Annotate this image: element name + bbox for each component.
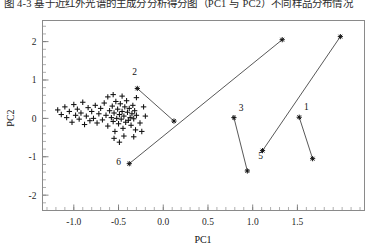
data-point-plus: [131, 134, 136, 139]
data-point-plus: [128, 123, 133, 128]
data-point-plus: [84, 113, 89, 118]
data-point-star: [231, 115, 236, 120]
data-point-plus: [85, 105, 90, 110]
data-point-plus: [55, 107, 60, 112]
point-number-label: 2: [132, 67, 137, 77]
data-point-star: [135, 86, 140, 91]
data-point-plus: [59, 112, 64, 117]
data-point-plus: [143, 113, 148, 118]
data-point-plus: [96, 111, 101, 116]
x-tick-label: -1.0: [66, 217, 81, 227]
data-point-plus: [132, 108, 137, 113]
data-point-plus: [103, 113, 108, 118]
major-tick-marks: [43, 42, 298, 211]
y-tick-label: 1: [32, 75, 37, 85]
data-point-plus: [98, 106, 103, 111]
data-point-plus: [111, 136, 116, 141]
data-point-plus: [120, 126, 125, 131]
y-tick-label: 0: [32, 114, 37, 124]
data-point-star: [245, 168, 250, 173]
x-tick-label: -0.5: [111, 217, 126, 227]
data-point-plus: [119, 116, 124, 121]
x-axis-tick-labels: -1.0-0.50.00.51.01.5: [66, 217, 303, 227]
data-point-plus: [100, 117, 105, 122]
plus-marker-group: [55, 92, 148, 145]
x-tick-label: 0.5: [202, 217, 214, 227]
data-point-star: [338, 34, 343, 39]
data-point-plus: [141, 104, 146, 109]
pair-connector-line: [299, 117, 312, 158]
data-point-star: [310, 156, 315, 161]
data-point-plus: [114, 116, 119, 121]
data-point-plus: [93, 103, 98, 108]
point-number-label: 3: [239, 103, 244, 113]
pair-connector-line: [234, 118, 247, 171]
data-point-plus: [105, 123, 110, 128]
data-point-plus: [76, 116, 81, 121]
data-point-plus: [80, 100, 85, 105]
plot-canvas: -1.0-0.50.00.51.01.5 -2-1012 PC1 PC2 123…: [0, 0, 391, 252]
pair-connector-line: [263, 37, 341, 151]
data-point-star: [297, 115, 302, 120]
data-point-plus: [119, 93, 124, 98]
point-number-label: 6: [116, 157, 121, 167]
data-point-star: [127, 161, 132, 166]
data-point-plus: [130, 103, 135, 108]
data-point-plus: [134, 95, 139, 100]
data-point-plus: [110, 92, 115, 97]
data-point-plus: [67, 109, 72, 114]
data-point-star: [171, 118, 176, 123]
data-point-plus: [73, 113, 78, 118]
data-point-plus: [124, 98, 129, 103]
data-point-plus: [78, 110, 83, 115]
data-point-plus: [139, 129, 144, 134]
data-point-plus: [137, 120, 142, 125]
data-point-plus: [117, 139, 122, 144]
data-point-plus: [102, 100, 107, 105]
scatter-plot-figure: -1.0-0.50.00.51.01.5 -2-1012 PC1 PC2 123…: [0, 0, 391, 252]
data-point-plus: [69, 120, 74, 125]
data-point-plus: [71, 102, 76, 107]
x-axis-label: PC1: [194, 234, 211, 245]
data-point-plus: [133, 127, 138, 132]
y-tick-label: -1: [29, 152, 37, 162]
y-tick-label: 2: [32, 37, 37, 47]
data-point-plus: [121, 133, 126, 138]
data-point-plus: [62, 104, 67, 109]
point-number-label: 1: [304, 102, 309, 112]
x-tick-label: 1.0: [247, 217, 259, 227]
plot-frame: [43, 21, 365, 211]
x-tick-label: 0.0: [157, 217, 169, 227]
data-point-plus: [131, 116, 136, 121]
data-point-plus: [64, 115, 69, 120]
data-point-plus: [75, 106, 80, 111]
point-number-label: 5: [258, 151, 263, 161]
data-point-plus: [110, 103, 115, 108]
data-point-plus: [105, 94, 110, 99]
data-point-plus: [89, 109, 94, 114]
data-point-plus: [112, 129, 117, 134]
y-tick-label: -2: [29, 191, 37, 201]
x-tick-label: 1.5: [291, 217, 303, 227]
y-axis-tick-labels: -2-1012: [29, 37, 37, 201]
y-axis-label: PC2: [5, 109, 16, 126]
data-point-plus: [94, 120, 99, 125]
data-point-plus: [116, 121, 121, 126]
data-point-star: [280, 37, 285, 42]
data-point-plus: [82, 122, 87, 127]
